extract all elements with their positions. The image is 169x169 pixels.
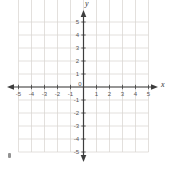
y-tick-label: -3 bbox=[74, 123, 80, 129]
x-tick-label: 3 bbox=[121, 91, 125, 97]
origin-label: 0 bbox=[78, 81, 82, 87]
x-tick-label: 1 bbox=[95, 91, 99, 97]
x-tick-label: -4 bbox=[29, 91, 35, 97]
x-axis-left-arrow bbox=[7, 84, 14, 90]
stray-mark bbox=[8, 153, 11, 158]
y-axis-top-arrow bbox=[81, 10, 87, 17]
y-axis-label: y bbox=[85, 0, 89, 8]
x-tick-label: -2 bbox=[55, 91, 61, 97]
coordinate-grid-plot: -5-4-3-2-11234554321-1-2-3-4-50 bbox=[0, 0, 169, 169]
x-tick-label: -5 bbox=[16, 91, 22, 97]
x-axis-right-arrow bbox=[151, 84, 158, 90]
x-axis-label: x bbox=[161, 81, 165, 89]
y-tick-label: -1 bbox=[74, 97, 80, 103]
y-tick-label: -4 bbox=[74, 136, 80, 142]
coordinate-plane-figure: -5-4-3-2-11234554321-1-2-3-4-50 x y bbox=[0, 0, 169, 169]
y-tick-label: -5 bbox=[74, 149, 80, 155]
x-tick-label: -1 bbox=[68, 91, 74, 97]
x-tick-label: 2 bbox=[108, 91, 112, 97]
x-tick-label: 5 bbox=[147, 91, 151, 97]
x-tick-label: -3 bbox=[42, 91, 48, 97]
y-axis-bottom-arrow bbox=[81, 155, 87, 162]
x-tick-label: 4 bbox=[134, 91, 138, 97]
y-tick-label: -2 bbox=[74, 110, 80, 116]
